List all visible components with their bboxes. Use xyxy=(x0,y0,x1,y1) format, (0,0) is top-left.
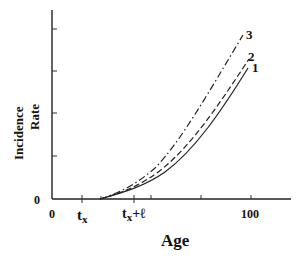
x-axis-title: Age xyxy=(161,231,190,250)
x-tick-label-tx-plus-l: tx+ℓ xyxy=(122,206,146,223)
chart-canvas: 3 2 1 Incidence Rate 0 0 tx tx+ℓ 100 Age xyxy=(0,0,306,260)
x-tick-label-tx: tx xyxy=(77,207,88,225)
curve-3-dashdot xyxy=(100,35,243,199)
curve-1-solid xyxy=(100,68,248,199)
incidence-rate-chart: 3 2 1 Incidence Rate 0 0 tx tx+ℓ 100 Age xyxy=(0,0,306,260)
curve-2-dashed xyxy=(100,59,249,199)
y-ticks xyxy=(52,29,57,156)
curve-label-1: 1 xyxy=(252,60,259,75)
y-axis-title-line2: Rate xyxy=(27,104,42,130)
x-origin-label: 0 xyxy=(49,207,55,221)
y-origin-label: 0 xyxy=(34,193,40,207)
y-axis-title-line1: Incidence xyxy=(11,106,26,160)
curve-label-3: 3 xyxy=(246,27,253,42)
x-tick-label-100: 100 xyxy=(241,207,259,221)
